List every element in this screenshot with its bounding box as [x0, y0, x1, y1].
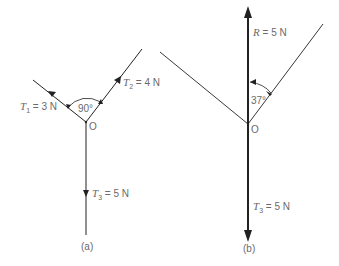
arrow-t3-icon	[83, 190, 89, 197]
force-label-t3: T3 = 5 N	[92, 188, 129, 201]
figure-b-lines	[160, 14, 323, 232]
force-label-t2: T2 = 4 N	[123, 77, 160, 90]
force-label-r: R = 5 N	[253, 27, 287, 40]
arrow-t2-icon	[114, 76, 121, 84]
force-label-t1: T1 = 3 N	[20, 101, 57, 114]
arrow-t1-icon	[48, 91, 56, 97]
force-diagram	[0, 0, 339, 266]
angle-label-b: 37°	[251, 96, 266, 106]
caption-a: (a)	[81, 242, 93, 252]
force-label-t3b: T3 = 5 N	[253, 201, 290, 214]
arrow-t3b-icon	[244, 230, 252, 242]
origin-label-a: O	[89, 122, 97, 132]
arrow-r-icon	[244, 6, 252, 18]
angle-arrow-icon	[250, 79, 256, 85]
figure-a-arrowheads	[48, 76, 121, 197]
origin-label-b: O	[251, 125, 259, 135]
caption-b: (b)	[243, 244, 255, 254]
angle-label-a: 90°	[78, 104, 93, 114]
